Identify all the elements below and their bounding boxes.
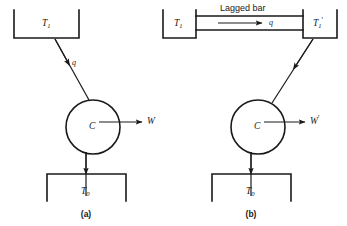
panel-b-engine-label: C xyxy=(254,121,261,131)
panel-b-lagged-bar-label: Lagged bar xyxy=(220,3,266,13)
panel-a-heat-label: q xyxy=(72,58,76,67)
panel-a-caption: (a) xyxy=(81,209,92,219)
figure-svg: T1 q C W T0 xyxy=(0,0,347,226)
panel-b-second-reservoir-label: T1' xyxy=(313,16,324,29)
panel-b-work-label: W' xyxy=(310,113,320,126)
panel-b: T1 Lagged bar q T1' C xyxy=(163,3,337,219)
heat-arrow-head xyxy=(55,39,69,64)
panel-a-engine-label: C xyxy=(89,121,96,131)
panel-b-cold-reservoir-label: T0 xyxy=(246,186,255,197)
panel-a-cold-reservoir-label: T0 xyxy=(81,186,90,197)
panel-b-bar-heat-label: q xyxy=(269,18,273,27)
panel-b-heat-arrow xyxy=(272,39,313,103)
panel-b-heat-arrow-head xyxy=(295,39,314,68)
panel-a-hot-reservoir-label: T1 xyxy=(42,18,51,29)
panel-a: T1 q C W T0 xyxy=(14,10,156,219)
panel-a-heat-arrow xyxy=(55,39,89,100)
panel-a-work-label: W xyxy=(147,116,156,126)
thermodynamics-figure: T1 q C W T0 xyxy=(0,0,347,226)
panel-b-hot-reservoir-label: T1 xyxy=(174,18,183,29)
panel-b-caption: (b) xyxy=(246,209,257,219)
